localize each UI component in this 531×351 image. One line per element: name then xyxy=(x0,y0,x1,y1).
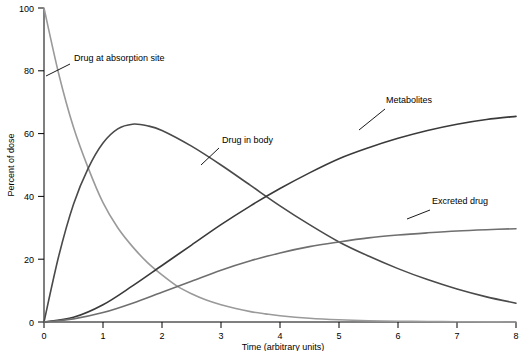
annotation-leader-excreted-drug xyxy=(407,210,430,219)
y-tick-label-60: 60 xyxy=(24,129,34,139)
x-tick-label-7: 7 xyxy=(454,331,459,341)
y-tick-label-0: 0 xyxy=(29,318,34,328)
annotations-group: Drug at absorption siteDrug in bodyMetab… xyxy=(46,53,488,219)
x-tick-label-6: 6 xyxy=(395,331,400,341)
y-tick-label-80: 80 xyxy=(24,66,34,76)
y-tick-label-40: 40 xyxy=(24,192,34,202)
x-tick-label-3: 3 xyxy=(218,331,223,341)
x-tick-label-4: 4 xyxy=(277,331,282,341)
annotation-leader-metabolites xyxy=(359,109,385,130)
y-tick-label-100: 100 xyxy=(19,4,34,14)
x-tick-label-8: 8 xyxy=(513,331,518,341)
y-axis-ticks: 0 20 40 60 80 100 xyxy=(19,4,44,328)
y-tick-label-20: 20 xyxy=(24,255,34,265)
y-axis-title: Percent of dose xyxy=(6,133,16,196)
series-line-excreted-drug xyxy=(44,229,516,322)
annotation-label-drug-in-body: Drug in body xyxy=(222,135,274,145)
annotation-label-drug-at-absorption-site: Drug at absorption site xyxy=(74,53,165,63)
line-chart: 0 20 40 60 80 100 0 1 2 3 4 5 6 7 8 xyxy=(0,0,531,351)
x-tick-label-5: 5 xyxy=(336,331,341,341)
x-axis-ticks: 0 1 2 3 4 5 6 7 8 xyxy=(41,322,518,341)
x-tick-label-1: 1 xyxy=(100,331,105,341)
x-axis-title: Time (arbitrary units) xyxy=(242,342,325,351)
chart-container: 0 20 40 60 80 100 0 1 2 3 4 5 6 7 8 xyxy=(0,0,531,351)
annotation-label-metabolites: Metabolites xyxy=(386,95,433,105)
x-tick-label-2: 2 xyxy=(159,331,164,341)
annotation-label-excreted-drug: Excreted drug xyxy=(432,196,488,206)
series-line-metabolites xyxy=(44,116,516,322)
x-tick-label-0: 0 xyxy=(41,331,46,341)
